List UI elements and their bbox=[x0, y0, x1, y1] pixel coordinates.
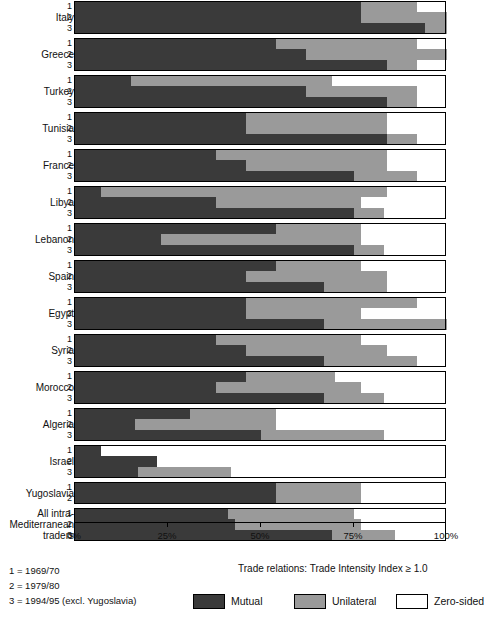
bar-segment-zero-sided bbox=[361, 382, 447, 393]
bar-segment-unilateral bbox=[276, 260, 362, 271]
legend-swatch-unilateral bbox=[294, 594, 326, 609]
bar-rows: 123 bbox=[74, 260, 446, 293]
bar-group: Libya123 bbox=[0, 186, 467, 219]
period-tick-label: 1 bbox=[63, 1, 72, 12]
bar-segment-unilateral bbox=[361, 1, 417, 12]
legend-item-zero-sided: Zero-sided bbox=[396, 592, 484, 610]
bar-rows: 123 bbox=[74, 75, 446, 108]
bar-segment-zero-sided bbox=[387, 282, 447, 293]
bar-segment-zero-sided bbox=[354, 508, 447, 519]
bar-segment-mutual bbox=[75, 23, 425, 34]
stacked-bar bbox=[74, 282, 446, 293]
bar-segment-unilateral bbox=[190, 408, 276, 419]
bar-segment-zero-sided bbox=[361, 482, 447, 493]
bar-segment-zero-sided bbox=[387, 123, 447, 134]
bar-group: Italy123 bbox=[0, 1, 467, 34]
bar-segment-unilateral bbox=[216, 197, 361, 208]
bar-segment-unilateral bbox=[387, 97, 417, 108]
stacked-bar bbox=[74, 223, 446, 234]
bar-group: Lebanon123 bbox=[0, 223, 467, 256]
bar-group: Spain123 bbox=[0, 260, 467, 293]
period-tick-label: 1 bbox=[63, 149, 72, 160]
period-tick-label: 1 bbox=[63, 112, 72, 123]
bar-segment-unilateral bbox=[276, 38, 417, 49]
legend-swatch-mutual bbox=[193, 594, 225, 609]
stacked-bar bbox=[74, 197, 446, 208]
bar-segment-zero-sided bbox=[417, 297, 447, 308]
bar-segment-mutual bbox=[75, 49, 306, 60]
bar-segment-zero-sided bbox=[361, 260, 447, 271]
bar-segment-unilateral bbox=[216, 149, 387, 160]
bar-segment-mutual bbox=[75, 419, 135, 430]
period-tick-label: 3 bbox=[63, 60, 72, 71]
period-tick-label: 3 bbox=[63, 467, 72, 478]
bar-segment-unilateral bbox=[387, 134, 417, 145]
stacked-bar bbox=[74, 75, 446, 86]
bar-group: Greece123 bbox=[0, 38, 467, 71]
period-tick-label: 3 bbox=[63, 208, 72, 219]
bar-segment-mutual bbox=[75, 467, 138, 478]
bar-segment-zero-sided bbox=[384, 430, 447, 441]
stacked-bar bbox=[74, 23, 446, 34]
stacked-bar bbox=[74, 408, 446, 419]
bar-segment-unilateral bbox=[354, 171, 417, 182]
bar-segment-unilateral bbox=[246, 271, 387, 282]
bar-segment-zero-sided bbox=[417, 171, 447, 182]
bar-segment-zero-sided bbox=[387, 345, 447, 356]
period-tick-label: 2 bbox=[63, 419, 72, 430]
bar-rows: 123 bbox=[74, 38, 446, 71]
bar-group: Morocco123 bbox=[0, 371, 467, 404]
bar-segment-zero-sided bbox=[361, 493, 447, 504]
bar-rows: 123 bbox=[74, 1, 446, 34]
stacked-bar bbox=[74, 508, 446, 519]
bar-segment-zero-sided bbox=[387, 271, 447, 282]
bar-segment-zero-sided bbox=[417, 1, 447, 12]
bar-segment-unilateral bbox=[276, 493, 362, 504]
stacked-bar bbox=[74, 208, 446, 219]
period-tick-label: 3 bbox=[63, 356, 72, 367]
bar-segment-mutual bbox=[75, 493, 276, 504]
bar-segment-zero-sided bbox=[361, 197, 447, 208]
period-tick-label: 2 bbox=[63, 160, 72, 171]
bar-segment-zero-sided bbox=[384, 208, 447, 219]
period-key-line: 2 = 1979/80 bbox=[9, 578, 136, 593]
bar-group: France123 bbox=[0, 149, 467, 182]
bar-segment-zero-sided bbox=[387, 149, 447, 160]
legend-label-zero-sided: Zero-sided bbox=[434, 595, 484, 607]
period-tick-label: 2 bbox=[63, 86, 72, 97]
legend-label-mutual: Mutual bbox=[231, 595, 263, 607]
bar-rows: 123 bbox=[74, 408, 446, 441]
period-tick-label: 1 bbox=[63, 334, 72, 345]
bar-segment-mutual bbox=[75, 356, 324, 367]
stacked-bar bbox=[74, 297, 446, 308]
bar-segment-unilateral bbox=[216, 334, 361, 345]
bar-segment-zero-sided bbox=[332, 75, 447, 86]
stacked-bar bbox=[74, 345, 446, 356]
stacked-bar bbox=[74, 160, 446, 171]
stacked-bar bbox=[74, 456, 446, 467]
period-tick-label: 2 bbox=[63, 308, 72, 319]
period-tick-label: 1 bbox=[63, 445, 72, 456]
period-tick-label: 3 bbox=[63, 319, 72, 330]
bar-segment-unilateral bbox=[216, 382, 361, 393]
bar-group: Algeria123 bbox=[0, 408, 467, 441]
stacked-bar bbox=[74, 467, 446, 478]
bar-segment-unilateral bbox=[101, 186, 387, 197]
bar-segment-mutual bbox=[75, 345, 246, 356]
legend-item-unilateral: Unilateral bbox=[294, 592, 376, 610]
legend-swatch-zero-sided bbox=[396, 594, 428, 609]
axis-tick bbox=[445, 522, 446, 527]
period-tick-label: 1 bbox=[63, 223, 72, 234]
bar-segment-unilateral bbox=[306, 86, 418, 97]
period-tick-label: 1 bbox=[63, 260, 72, 271]
bar-rows: 123 bbox=[74, 112, 446, 145]
bar-group: Israel123 bbox=[0, 445, 467, 478]
bar-segment-zero-sided bbox=[101, 445, 447, 456]
bar-segment-zero-sided bbox=[387, 112, 447, 123]
stacked-bar bbox=[74, 430, 446, 441]
bar-segment-unilateral bbox=[246, 345, 387, 356]
bar-segment-mutual bbox=[75, 171, 354, 182]
bar-group: Syria123 bbox=[0, 334, 467, 367]
bar-segment-zero-sided bbox=[276, 419, 447, 430]
period-tick-label: 3 bbox=[63, 393, 72, 404]
